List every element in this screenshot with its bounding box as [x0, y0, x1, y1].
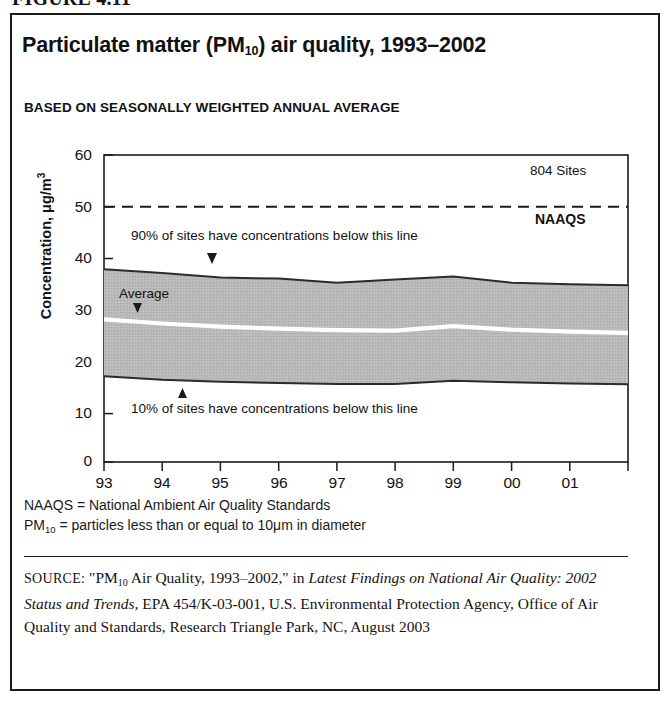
p90-pointer-icon	[207, 253, 217, 264]
source-label: SOURCE:	[24, 571, 85, 586]
source-quoted-subscript: 10	[118, 577, 128, 588]
source-quoted-prefix: "PM	[89, 569, 118, 586]
p10-pointer-icon	[178, 388, 187, 398]
footnote-pm10-subscript: 10	[45, 524, 56, 535]
x-axis-ticks	[104, 462, 628, 471]
footnotes-block: NAAQS = National Ambient Air Quality Sta…	[24, 495, 366, 537]
figure-page: FIGURE 4.11 Particulate matter (PM10) ai…	[0, 0, 670, 706]
source-divider	[24, 556, 628, 557]
source-quoted-suffix: Air Quality, 1993–2002,"	[128, 569, 289, 586]
footnote-naaqs: NAAQS = National Ambient Air Quality Sta…	[24, 495, 366, 515]
percentile-band-area	[104, 269, 628, 384]
footnote-pm10-prefix: PM	[24, 517, 45, 533]
footnote-pm10-suffix: = particles less than or equal to 10μm i…	[56, 517, 366, 533]
source-block: SOURCE: "PM10 Air Quality, 1993–2002," i…	[24, 566, 636, 639]
footnote-pm10: PM10 = particles less than or equal to 1…	[24, 515, 366, 537]
source-in-word: in	[292, 569, 304, 586]
